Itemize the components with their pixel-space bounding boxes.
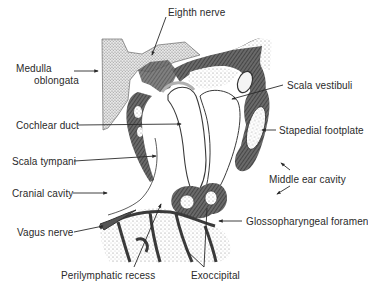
leader-cochlear-duct — [78, 124, 181, 125]
scala-tympani-partition — [126, 92, 154, 182]
tympani-inner-2 — [137, 127, 143, 137]
label-middle-ear-cavity: Middle ear cavity — [269, 174, 346, 185]
tympani-inner-1 — [134, 106, 142, 118]
label-exoccipital: Exoccipital — [191, 270, 240, 281]
label-perilymphatic-recess: Perilymphatic recess — [61, 270, 155, 281]
bone-stipple-mid — [188, 68, 238, 89]
label-cochlear-duct: Cochlear duct — [16, 120, 79, 131]
label-medulla-line2: oblongata — [34, 75, 79, 86]
label-scala-tympani: Scala tympani — [12, 156, 76, 167]
label-glossopharyngeal-foramen: Glossopharyngeal foramen — [246, 216, 368, 227]
glosso-hole-1 — [180, 195, 194, 209]
label-cranial-cavity: Cranial cavity — [12, 188, 73, 199]
label-stapedial-footplate: Stapedial footplate — [279, 125, 364, 136]
glosso-hole-2 — [205, 191, 217, 205]
label-vagus-nerve: Vagus nerve — [17, 227, 74, 238]
cochlear-duct-lumen — [168, 87, 206, 196]
scala-vestibuli-lumen — [200, 90, 240, 198]
leader-middle-ear-up — [281, 163, 290, 170]
label-eighth-nerve: Eighth nerve — [168, 7, 225, 18]
label-medulla-line1: Medulla — [16, 63, 52, 74]
leader-middle-ear-down — [277, 186, 290, 194]
label-scala-vestibuli: Scala vestibuli — [287, 80, 352, 91]
leader-vagus-nerve — [74, 226, 103, 232]
